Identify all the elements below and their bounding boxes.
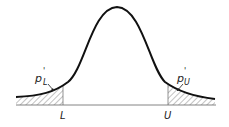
lower-tail-subscript: L [43,78,47,87]
upper-tail-label: p [176,72,184,85]
lower-limit-label: L [60,110,66,121]
upper-tail-subscript: U [184,78,190,87]
lower-tail-label: p [34,72,42,85]
lower-tail-prime: ' [43,67,45,76]
upper-tail-prime: ' [184,67,186,76]
normal-curve-diagram: p ' L p ' U L U [0,0,229,127]
upper-limit-label: U [164,110,172,121]
